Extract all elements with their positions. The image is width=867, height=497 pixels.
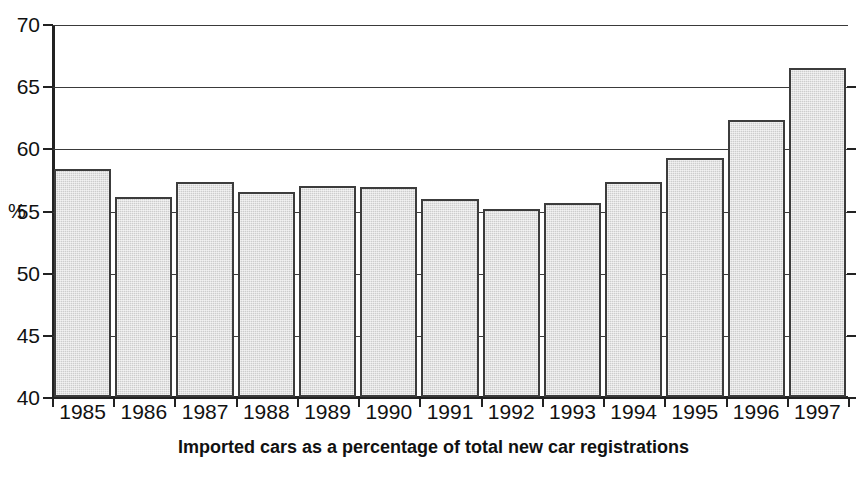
- chart-figure: 70656055504540 % 19851986198719881989199…: [0, 0, 867, 497]
- bar-1985: [54, 169, 111, 397]
- bar-1994: [605, 182, 662, 397]
- y-tick-right-60: [847, 148, 856, 150]
- bar-1997: [789, 68, 846, 397]
- y-tick-70: [43, 24, 53, 26]
- y-tick-65: [43, 86, 53, 88]
- plot-area: [52, 25, 848, 398]
- y-tick-45: [43, 335, 53, 337]
- bar-1995: [666, 158, 723, 397]
- y-tick-label-50: 50: [0, 263, 40, 284]
- bar-1986: [115, 197, 172, 397]
- y-tick-label-70: 70: [0, 14, 40, 35]
- y-tick-label-45: 45: [0, 325, 40, 346]
- x-tick-label-1990: 1990: [358, 400, 419, 424]
- x-tick-label-1996: 1996: [726, 400, 787, 424]
- x-tick-label-1985: 1985: [52, 400, 113, 424]
- bar-1989: [299, 186, 356, 397]
- x-tick-label-1988: 1988: [236, 400, 297, 424]
- bar-1993: [544, 203, 601, 397]
- bar-1990: [360, 187, 417, 397]
- y-tick-right-65: [847, 86, 856, 88]
- y-tick-label-40: 40: [0, 387, 40, 408]
- y-tick-50: [43, 273, 53, 275]
- x-tick-label-1993: 1993: [542, 400, 603, 424]
- y-tick-label-65: 65: [0, 76, 40, 97]
- bar-1991: [421, 199, 478, 397]
- y-tick-60: [43, 148, 53, 150]
- y-tick-right-55: [847, 211, 856, 213]
- gridline-70: [52, 25, 848, 26]
- x-tick-label-1991: 1991: [419, 400, 480, 424]
- x-tick-label-1995: 1995: [664, 400, 725, 424]
- y-tick-right-50: [847, 273, 856, 275]
- x-tick-label-1986: 1986: [113, 400, 174, 424]
- y-tick-right-45: [847, 335, 856, 337]
- x-tick-label-1994: 1994: [603, 400, 664, 424]
- x-tick-label-1987: 1987: [174, 400, 235, 424]
- x-axis-tick-labels: 1985198619871988198919901991199219931994…: [52, 400, 848, 430]
- bar-1987: [176, 182, 233, 397]
- x-tick-label-1997: 1997: [787, 400, 848, 424]
- bar-1988: [238, 192, 295, 397]
- y-axis-title: %: [8, 201, 26, 221]
- x-tick-13: [848, 398, 850, 407]
- y-tick-label-60: 60: [0, 138, 40, 159]
- x-tick-label-1989: 1989: [297, 400, 358, 424]
- bar-1996: [728, 120, 785, 397]
- bar-1992: [483, 209, 540, 397]
- chart-caption: Imported cars as a percentage of total n…: [0, 437, 867, 458]
- x-tick-label-1992: 1992: [481, 400, 542, 424]
- y-tick-55: [43, 211, 53, 213]
- gridline-65: [52, 87, 848, 88]
